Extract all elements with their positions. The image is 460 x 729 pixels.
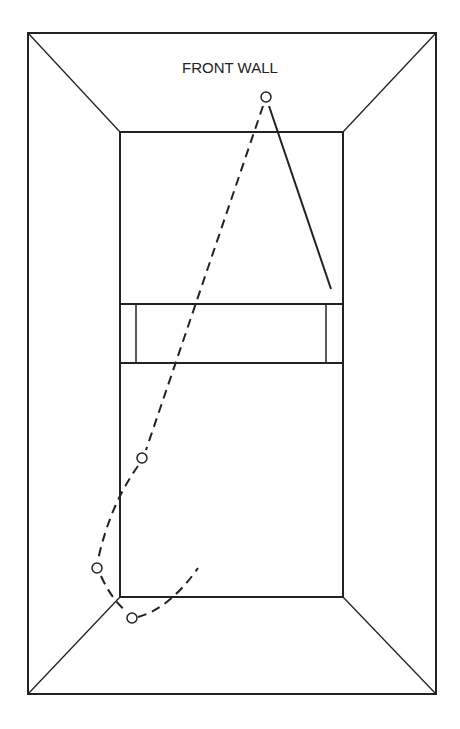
shot-path-solid: [269, 106, 331, 289]
ball-icon: [261, 92, 271, 102]
ball-icon: [92, 563, 102, 573]
shot-path-dashed: [98, 106, 263, 617]
front-wall-label: FRONT WALL: [182, 59, 278, 76]
court-diagram: FRONT WALL: [0, 0, 460, 729]
ball-icon: [127, 613, 137, 623]
floor-rect: [120, 132, 343, 597]
corner-line-tr: [343, 33, 436, 132]
corner-line-bl: [28, 597, 120, 694]
corner-line-br: [343, 597, 436, 694]
corner-line-tl: [28, 33, 120, 132]
ball-icon: [137, 453, 147, 463]
